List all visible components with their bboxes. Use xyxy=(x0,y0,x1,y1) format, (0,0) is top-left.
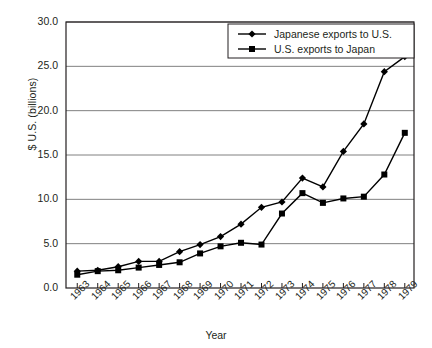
y-tick-label: 25.0 xyxy=(14,60,58,71)
data-point xyxy=(197,250,203,256)
data-point xyxy=(320,200,326,206)
legend-label-0: Japanese exports to U.S. xyxy=(274,28,392,40)
y-tick-label: 20.0 xyxy=(14,105,58,116)
chart-figure: $ U.S. (billions) Year 0.05.010.015.020.… xyxy=(0,0,432,348)
y-tick-label: 30.0 xyxy=(14,16,58,27)
data-point xyxy=(176,248,183,255)
data-point xyxy=(218,243,224,249)
data-point xyxy=(340,195,346,201)
data-point xyxy=(402,130,408,136)
data-point xyxy=(279,211,285,217)
series-line-1 xyxy=(77,133,405,275)
data-point xyxy=(258,242,264,248)
data-point xyxy=(156,262,162,268)
y-tick-label: 15.0 xyxy=(14,149,58,160)
series-line-0 xyxy=(77,57,405,272)
data-point xyxy=(217,233,224,240)
data-point xyxy=(115,267,121,273)
x-axis-label: Year xyxy=(0,329,432,341)
data-point xyxy=(381,172,387,178)
y-tick-label: 5.0 xyxy=(14,238,58,249)
data-point xyxy=(196,241,203,248)
data-point xyxy=(177,259,183,265)
data-point xyxy=(299,190,305,196)
y-tick-label: 0.0 xyxy=(14,282,58,293)
data-point xyxy=(136,265,142,271)
legend-marker-1 xyxy=(249,46,255,52)
data-point xyxy=(95,268,101,274)
data-point xyxy=(74,272,80,278)
y-tick-label: 10.0 xyxy=(14,193,58,204)
data-point xyxy=(319,183,326,190)
legend-label-1: U.S. exports to Japan xyxy=(274,43,375,55)
data-point xyxy=(135,258,142,265)
data-point xyxy=(238,240,244,246)
data-point xyxy=(361,194,367,200)
